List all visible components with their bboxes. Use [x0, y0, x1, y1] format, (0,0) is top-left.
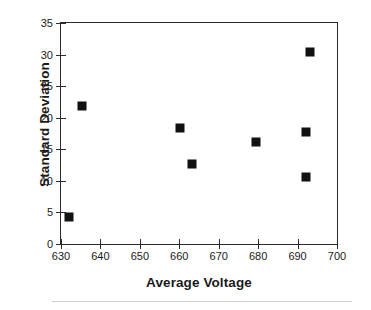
y-axis-tick-label: 30	[41, 49, 53, 61]
x-axis-tick-label: 680	[249, 250, 267, 262]
y-axis-tick-inner	[61, 181, 66, 182]
data-point	[64, 213, 73, 222]
x-axis-tick-inner	[61, 239, 62, 244]
y-axis-title: Standard Deviation	[37, 15, 52, 235]
x-axis-tick-label: 700	[328, 250, 346, 262]
data-point	[302, 173, 311, 182]
data-point	[77, 101, 86, 110]
y-axis-tick-inner	[61, 55, 66, 56]
x-axis-tick-label: 690	[288, 250, 306, 262]
bottom-rule-divider	[52, 301, 352, 302]
data-point	[306, 48, 315, 57]
x-axis-tick	[140, 244, 141, 249]
x-axis-tick-inner	[337, 239, 338, 244]
data-point	[187, 159, 196, 168]
x-axis-tick	[179, 244, 180, 249]
y-axis-tick-label: 25	[41, 80, 53, 92]
x-axis-tick	[337, 244, 338, 249]
x-axis-tick	[258, 244, 259, 249]
y-axis-tick-label: 20	[41, 112, 53, 124]
y-axis-tick-label: 15	[41, 143, 53, 155]
y-axis-tick-label: 0	[47, 238, 53, 250]
x-axis-tick	[100, 244, 101, 249]
y-axis-tick-inner	[61, 86, 66, 87]
y-axis-tick-inner	[61, 149, 66, 150]
x-axis-tick-inner	[298, 239, 299, 244]
y-axis-tick-inner	[61, 23, 66, 24]
y-axis-tick-label: 35	[41, 17, 53, 29]
y-axis-tick-label: 10	[41, 175, 53, 187]
x-axis-tick	[219, 244, 220, 249]
y-axis-tick-label: 5	[47, 206, 53, 218]
x-axis-tick-inner	[219, 239, 220, 244]
x-axis-tick-inner	[179, 239, 180, 244]
data-point	[175, 124, 184, 133]
data-point	[302, 128, 311, 137]
x-axis-tick-label: 650	[131, 250, 149, 262]
x-axis-tick-label: 640	[91, 250, 109, 262]
x-axis-tick-label: 660	[170, 250, 188, 262]
scatter-chart-figure: Standard Deviation 051015202530356306406…	[0, 0, 371, 310]
x-axis-tick	[298, 244, 299, 249]
x-axis-tick-label: 670	[210, 250, 228, 262]
x-axis-tick	[61, 244, 62, 249]
x-axis-tick-inner	[258, 239, 259, 244]
x-axis-tick-inner	[140, 239, 141, 244]
data-point	[252, 137, 261, 146]
y-axis-tick-inner	[61, 118, 66, 119]
x-axis-tick-inner	[100, 239, 101, 244]
x-axis-tick-label: 630	[52, 250, 70, 262]
plot-area: 05101520253035630640650660670680690700	[60, 22, 338, 245]
x-axis-title: Average Voltage	[60, 275, 338, 290]
